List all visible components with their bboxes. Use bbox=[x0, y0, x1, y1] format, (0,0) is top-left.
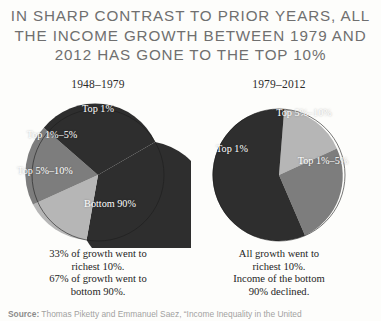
chart-subtitle-right: 1979–2012 bbox=[186, 78, 372, 90]
pie-chart-1948-1979: 1948–1979 Top 1% Top 1%–5% bbox=[5, 78, 191, 248]
pie-left-wrap: Top 1% Top 1%–5% Top 5%–10% Bottom 90% bbox=[5, 103, 191, 248]
source-text: Thomas Piketty and Emmanuel Saez, “Incom… bbox=[39, 309, 301, 319]
pie-right-svg bbox=[186, 103, 372, 248]
charts-row: 1948–1979 Top 1% Top 1%–5% bbox=[0, 78, 381, 248]
pie-right-label-top5-10: Top 5%–10% bbox=[266, 107, 342, 118]
source-label: Source: bbox=[8, 309, 39, 319]
chart-subtitle-left: 1948–1979 bbox=[5, 78, 191, 90]
pie-right-wrap: Top 5%–10% Top 1%–5% Top 1% bbox=[186, 103, 372, 248]
pie-left-label-top5-10: Top 5%–10% bbox=[9, 165, 81, 176]
pie-left-label-top1-5: Top 1%–5% bbox=[21, 129, 83, 140]
pie-left-label-top1: Top 1% bbox=[66, 103, 130, 114]
pie-right-label-top1: Top 1% bbox=[200, 143, 264, 154]
title-line-2: THE INCOME GROWTH BETWEEN 1979 AND bbox=[0, 26, 381, 46]
title-line-3: 2012 HAS GONE TO THE TOP 10% bbox=[0, 45, 381, 65]
title-line-1: IN SHARP CONTRAST TO PRIOR YEARS, ALL bbox=[0, 6, 381, 26]
source-line: Source: Thomas Piketty and Emmanuel Saez… bbox=[8, 309, 381, 320]
pie-left-label-bottom-90: Bottom 90% bbox=[74, 198, 146, 209]
caption-left: 33% of growth went to richest 10%. 67% o… bbox=[5, 248, 191, 298]
pie-chart-1979-2012: 1979–2012 Top 5%–10% Top 1%–5% bbox=[186, 78, 372, 248]
page-title: IN SHARP CONTRAST TO PRIOR YEARS, ALL TH… bbox=[0, 6, 381, 65]
captions-row: 33% of growth went to richest 10%. 67% o… bbox=[0, 248, 381, 306]
caption-right: All growth went to richest 10%. Income o… bbox=[186, 248, 372, 298]
pie-right-label-top1-5: Top 1%–5% bbox=[290, 155, 356, 166]
